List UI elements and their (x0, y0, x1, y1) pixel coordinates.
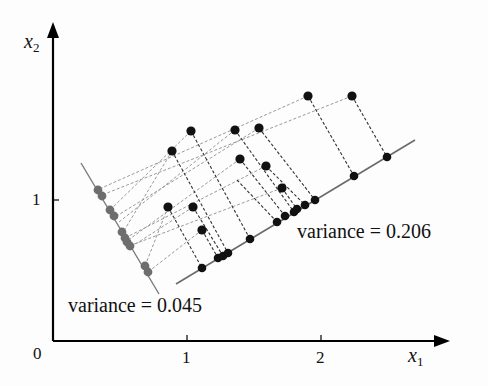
pca-diagram: x2 x1 0 1 2 1 variance = 0.206 variance … (0, 0, 488, 386)
x-axis-label: x1 (408, 344, 423, 370)
y-tick-1: 1 (32, 190, 41, 210)
x-axis-arrow-icon (434, 335, 450, 347)
variance-small-label: variance = 0.045 (68, 294, 202, 317)
y-axis-arrow-icon (47, 22, 59, 38)
x-tick-1: 1 (182, 348, 191, 368)
data-points (163, 91, 356, 234)
variance-large-label: variance = 0.206 (297, 220, 431, 243)
y-axis-label: x2 (24, 30, 39, 56)
projected-points-first (198, 153, 392, 273)
origin-label: 0 (33, 344, 42, 364)
x-tick-2: 2 (316, 348, 325, 368)
dashed-projections-second (97, 96, 352, 272)
plot-canvas (0, 0, 488, 386)
